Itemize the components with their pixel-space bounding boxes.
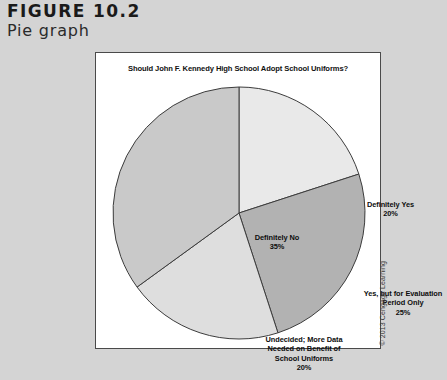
slice-label-text: Definitely Yes (367, 200, 414, 209)
slice-label-definitely-yes: Definitely Yes 20% (343, 190, 438, 228)
copyright-notice: © 2013 Cengage Learning (379, 261, 386, 346)
slice-label-definitely-no: Definitely No 35% (227, 223, 327, 261)
slice-percent: 25% (349, 308, 447, 318)
slice-label-text: Yes, but for Evaluation Period Only (364, 289, 443, 308)
pie-slice-group (113, 87, 365, 339)
pie-chart (96, 53, 382, 350)
slice-label-undecided: Undecided; More Data Needed on Benefit o… (243, 325, 365, 380)
figure-header: FIGURE 10.2 Pie graph (7, 2, 307, 40)
chart-panel: Should John F. Kennedy High School Adopt… (95, 52, 381, 349)
slice-percent: 35% (227, 242, 327, 252)
slice-label-text: Undecided; More Data Needed on Benefit o… (265, 335, 342, 363)
slice-percent: 20% (243, 363, 365, 373)
slice-label-text: Definitely No (255, 233, 300, 242)
pie-chart-svg (96, 53, 382, 350)
figure-caption: Pie graph (7, 21, 307, 40)
slice-label-evaluation-period: Yes, but for Evaluation Period Only 25% (349, 279, 447, 327)
figure-number: FIGURE 10.2 (7, 2, 307, 21)
slice-percent: 20% (343, 209, 438, 219)
